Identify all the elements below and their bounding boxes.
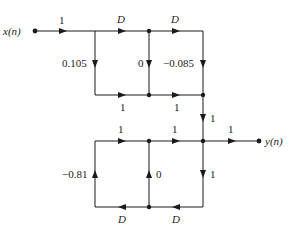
output-node: [257, 139, 262, 144]
input-gain-label: 1: [59, 14, 65, 26]
arrow-sum1: [118, 92, 126, 98]
output-gain-label: 1: [228, 123, 234, 135]
node: [147, 29, 151, 33]
coef-b2-label: −0.085: [163, 57, 194, 69]
arrow-fwd2: [172, 138, 180, 144]
arrow-b2: [200, 60, 206, 68]
arrow-b0: [92, 60, 98, 68]
arrow-fwd1: [118, 138, 126, 144]
arrow-bdelay1: [118, 204, 126, 210]
bdelay2-label: D: [171, 213, 180, 225]
arrow-sum2: [172, 92, 180, 98]
arrow-a1: [146, 170, 152, 178]
nodes: [33, 29, 262, 210]
link-gain-label: 1: [210, 112, 216, 124]
fwd-gain2-label: 1: [172, 123, 178, 135]
coef-b0-label: 0.105: [62, 57, 87, 69]
arrow-bdelay2: [172, 204, 180, 210]
coef-b1-label: 0: [138, 57, 144, 69]
arrow-a2: [92, 170, 98, 178]
arrow-delay2: [172, 28, 180, 34]
node: [201, 93, 205, 97]
bdelay1-label: D: [117, 213, 126, 225]
arrow-down: [200, 170, 206, 178]
input-node: [33, 29, 38, 34]
coef-a1-label: 0: [156, 168, 162, 180]
delay2-label: D: [170, 13, 179, 25]
down-gain-label: 1: [210, 168, 216, 180]
arrow-link: [200, 114, 206, 122]
sum-gain1-label: 1: [120, 101, 126, 113]
signal-flow-diagram: x(n) y(n) 1 D D 0.105 0 −0.085 1 1 1 1 1…: [0, 0, 294, 233]
input-label: x(n): [2, 25, 21, 38]
node: [201, 139, 205, 143]
node: [147, 205, 151, 209]
diagram-svg: x(n) y(n) 1 D D 0.105 0 −0.085 1 1 1 1 1…: [0, 0, 294, 233]
arrow-output: [228, 138, 236, 144]
fwd-gain1-label: 1: [118, 123, 124, 135]
delay1-label: D: [116, 13, 125, 25]
node: [147, 139, 151, 143]
arrow-delay1: [118, 28, 126, 34]
output-label: y(n): [264, 135, 283, 148]
arrow-input: [59, 28, 67, 34]
arrow-b1: [146, 60, 152, 68]
node: [147, 93, 151, 97]
sum-gain2-label: 1: [174, 101, 180, 113]
coef-a2-label: −0.81: [62, 168, 87, 180]
